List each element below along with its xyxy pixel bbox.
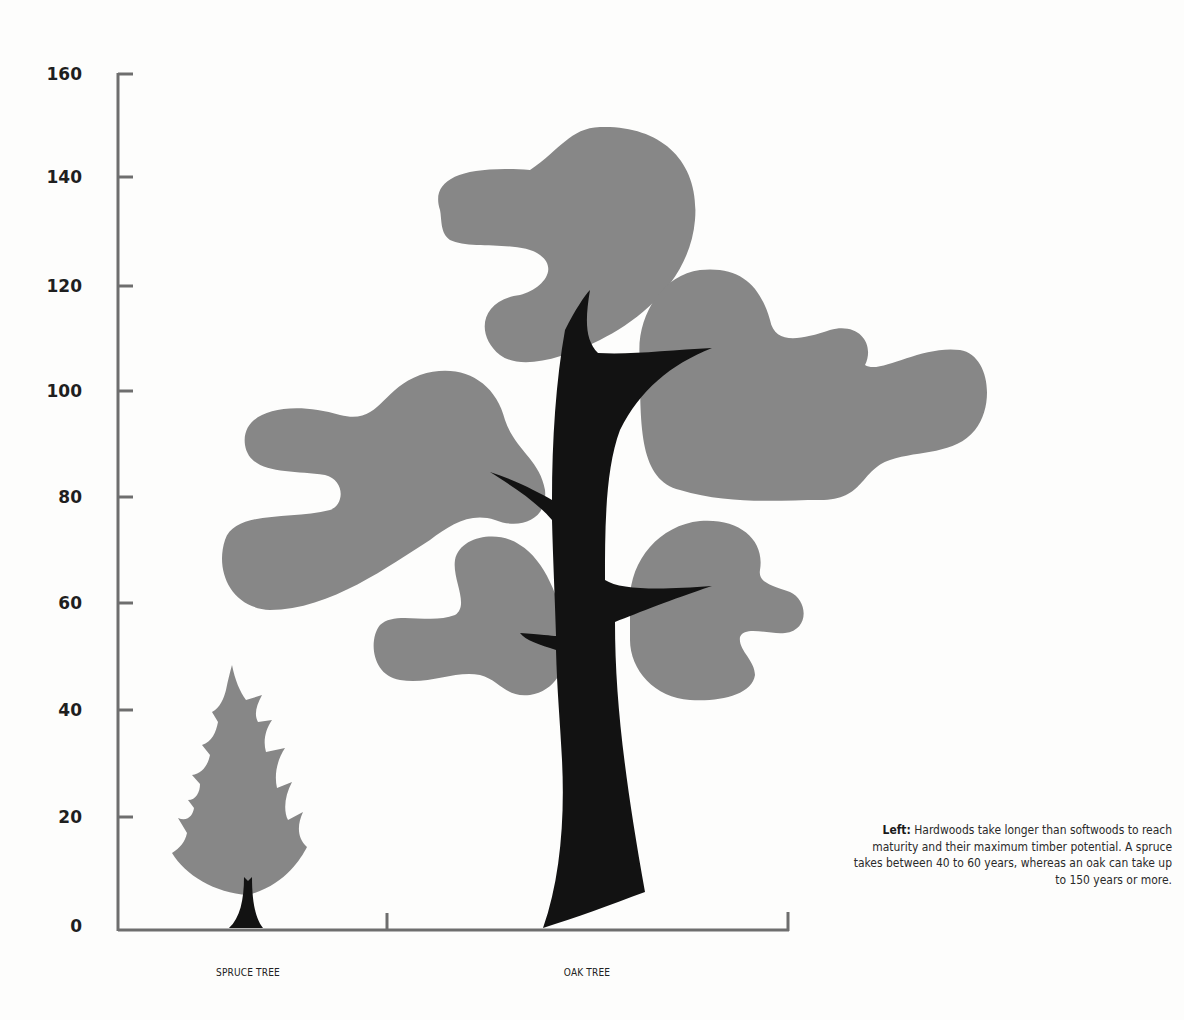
- y-tick-120: 120: [20, 276, 82, 296]
- y-tick-60: 60: [20, 593, 82, 613]
- spruce-foliage: [172, 665, 307, 895]
- caption-lead: Left:: [883, 822, 911, 837]
- y-axis: [118, 73, 133, 931]
- y-tick-20: 20: [20, 807, 82, 827]
- y-tick-140: 140: [20, 167, 82, 187]
- y-tick-0: 0: [20, 916, 82, 936]
- category-label-spruce: SPRUCE TREE: [182, 966, 313, 979]
- chart-caption: Left: Hardwoods take longer than softwoo…: [852, 822, 1172, 888]
- y-tick-40: 40: [20, 700, 82, 720]
- category-label-oak: OAK TREE: [521, 966, 652, 979]
- tree-maturity-chart: 160 140 120 100 80 60 40 20 0 SPRUCE TRE…: [0, 0, 1184, 1020]
- x-axis: [118, 912, 789, 931]
- y-tick-100: 100: [20, 381, 82, 401]
- y-tick-80: 80: [20, 487, 82, 507]
- y-tick-160: 160: [20, 64, 82, 84]
